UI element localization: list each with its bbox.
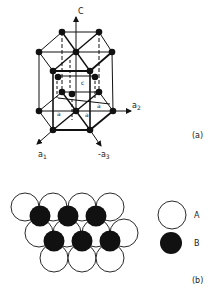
a-parameter-label-1: a [57,110,61,117]
a-parameter-label-3: a [85,111,89,118]
legend: A B [158,201,200,254]
a-parameter-label-2: a [97,102,101,109]
close-packed-layer [11,193,138,272]
a2-subscript: 2 [137,104,141,111]
figure-canvas: C a2 a1 -a3 c a a a (a) [0,0,215,294]
neg-a3-axis-label: -a3 [98,150,110,160]
neg-a3-subscript: 3 [106,153,110,160]
a1-axis-label: a1 [38,150,47,160]
a1-subscript: 1 [43,153,47,160]
legend-label-a: A [194,211,200,220]
a2-axis-label: a2 [132,101,141,111]
figure-b-label: (b) [192,276,203,285]
c-axis-label: C [78,7,84,16]
figure-a-label: (a) [192,131,203,140]
neg-a3-text: -a [98,150,106,159]
legend-open-circle-icon [158,201,186,229]
c-parameter-label: c [81,79,84,86]
a-atoms [11,193,138,272]
legend-label-b: B [194,239,200,248]
legend-filled-circle-icon [160,232,182,254]
